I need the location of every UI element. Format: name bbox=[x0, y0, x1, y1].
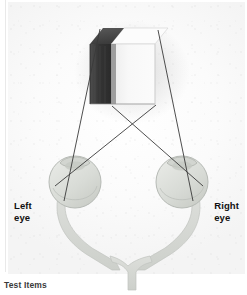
optic-chiasm bbox=[110, 256, 152, 290]
left-eye-label-line1: Left bbox=[14, 200, 32, 212]
left-eye bbox=[49, 156, 101, 208]
figure-caption: Test Items bbox=[4, 280, 47, 290]
figure-root: Left eye Right eye Test Items bbox=[0, 0, 247, 295]
left-optic-nerve bbox=[57, 196, 120, 270]
binocular-vision-diagram bbox=[0, 0, 247, 295]
block-front-edge-shading bbox=[111, 44, 116, 104]
right-eye bbox=[156, 156, 208, 208]
right-eye-label-line2: eye bbox=[214, 212, 239, 224]
left-eye-label-line2: eye bbox=[14, 212, 32, 224]
right-eye-label: Right eye bbox=[214, 200, 239, 223]
left-eye-label: Left eye bbox=[14, 200, 32, 223]
right-eye-lens bbox=[172, 162, 192, 171]
left-eye-lens bbox=[65, 162, 85, 171]
block-dark-face bbox=[90, 44, 111, 104]
optic-nerve-group bbox=[57, 196, 200, 290]
right-eye-label-line1: Right bbox=[214, 200, 239, 212]
block-light-face bbox=[111, 44, 155, 104]
